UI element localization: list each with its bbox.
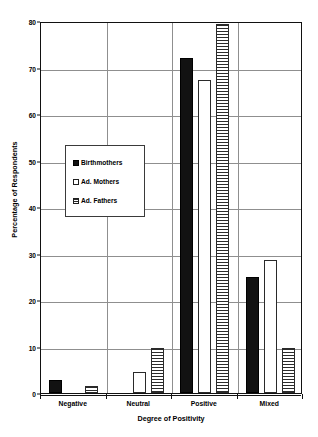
bar-positive-ad-mothers — [198, 80, 211, 393]
bar-mixed-ad-mothers — [264, 260, 277, 393]
y-tick-label-50: 50 — [4, 158, 40, 165]
y-tick-label-30: 30 — [4, 251, 40, 258]
y-tick-label-60: 60 — [4, 112, 40, 119]
legend-item-ad-fathers: Ad. Fathers — [73, 191, 144, 210]
x-category-label-mixed: Mixed — [260, 400, 279, 407]
y-tick-label-20: 20 — [4, 298, 40, 305]
y-tick-label-0: 0 — [4, 391, 40, 398]
x-tick-mark-0 — [40, 394, 41, 399]
bar-mixed-birthmothers — [246, 277, 259, 393]
legend-swatch-birthmothers — [73, 160, 79, 166]
x-axis-title: Degree of Positivity — [40, 414, 302, 423]
legend-label-birthmothers: Birthmothers — [81, 159, 122, 166]
legend-swatch-ad-fathers — [73, 198, 79, 204]
legend-swatch-ad-mothers — [73, 179, 79, 185]
legend-label-ad-mothers: Ad. Mothers — [81, 178, 119, 185]
x-tick-mark-4 — [302, 394, 303, 399]
plot-area: Birthmothers Ad. Mothers Ad. Fathers — [40, 22, 302, 394]
bar-positive-birthmothers — [180, 58, 193, 393]
y-tick-label-40: 40 — [4, 205, 40, 212]
x-category-label-positive: Positive — [191, 400, 217, 407]
x-tick-mark-1 — [106, 394, 107, 399]
x-category-label-neutral: Neutral — [127, 400, 150, 407]
bar-positive-ad-fathers — [216, 24, 229, 393]
y-tick-label-80: 80 — [4, 19, 40, 26]
legend-item-birthmothers: Birthmothers — [73, 153, 144, 172]
bar-neutral-ad-mothers — [133, 372, 146, 393]
x-tick-mark-2 — [171, 394, 172, 399]
y-axis-ticks: 01020304050607080 — [0, 22, 40, 394]
x-tick-mark-3 — [237, 394, 238, 399]
bar-negative-birthmothers — [49, 380, 62, 393]
bar-neutral-ad-fathers — [151, 348, 164, 393]
x-category-label-negative: Negative — [59, 400, 87, 407]
bar-negative-ad-fathers — [85, 386, 98, 393]
bar-mixed-ad-fathers — [282, 348, 295, 393]
y-tick-label-10: 10 — [4, 344, 40, 351]
legend-item-ad-mothers: Ad. Mothers — [73, 172, 144, 191]
bar-chart: Percentage of Respondents 01020304050607… — [0, 0, 318, 437]
legend: Birthmothers Ad. Mothers Ad. Fathers — [65, 145, 145, 217]
legend-label-ad-fathers: Ad. Fathers — [81, 197, 117, 204]
y-tick-label-70: 70 — [4, 65, 40, 72]
